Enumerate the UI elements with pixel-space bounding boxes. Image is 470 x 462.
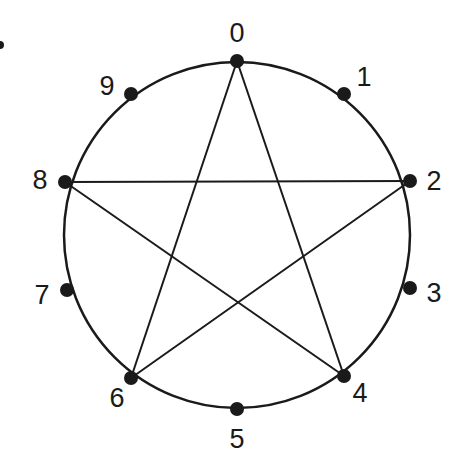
node-label-0: 0 (229, 18, 244, 48)
outer-circle (64, 62, 410, 408)
stray-dot (0, 41, 4, 49)
node-7 (60, 283, 74, 297)
nodes-group (58, 54, 417, 416)
edge-0-6 (131, 61, 237, 378)
labels-group: 0123456789 (32, 18, 441, 454)
node-3 (403, 281, 417, 295)
node-label-6: 6 (109, 383, 124, 413)
edges-group (65, 61, 410, 378)
node-label-7: 7 (34, 280, 49, 310)
node-label-4: 4 (352, 378, 367, 408)
node-label-9: 9 (99, 71, 114, 101)
edge-8-2 (65, 181, 410, 182)
node-0 (230, 54, 244, 68)
node-label-5: 5 (229, 424, 244, 454)
node-1 (337, 87, 351, 101)
node-4 (337, 369, 351, 383)
node-8 (58, 175, 72, 189)
circular-graph-diagram: 0123456789 (0, 0, 470, 462)
edge-8-4 (65, 182, 344, 376)
node-label-8: 8 (32, 165, 47, 195)
node-5 (230, 402, 244, 416)
edge-0-4 (237, 61, 344, 376)
node-label-2: 2 (426, 166, 441, 196)
node-label-3: 3 (426, 278, 441, 308)
node-2 (403, 174, 417, 188)
node-label-1: 1 (356, 62, 371, 92)
node-9 (124, 87, 138, 101)
node-6 (124, 371, 138, 385)
